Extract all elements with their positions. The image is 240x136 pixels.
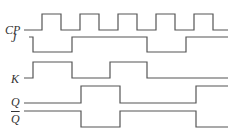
- q-label: Q: [11, 96, 20, 108]
- jk-flip-flop-timing-diagram: CP J K Q Q: [0, 0, 240, 136]
- waveform-canvas: [0, 0, 240, 136]
- q-waveform: [24, 86, 228, 103]
- cp-waveform: [24, 14, 228, 30]
- j-waveform: [29, 37, 228, 52]
- k-waveform: [24, 62, 228, 78]
- k-label: K: [11, 73, 19, 85]
- q-bar-waveform: [24, 111, 228, 127]
- q-bar-label: Q: [11, 113, 20, 125]
- j-label: J: [11, 32, 16, 44]
